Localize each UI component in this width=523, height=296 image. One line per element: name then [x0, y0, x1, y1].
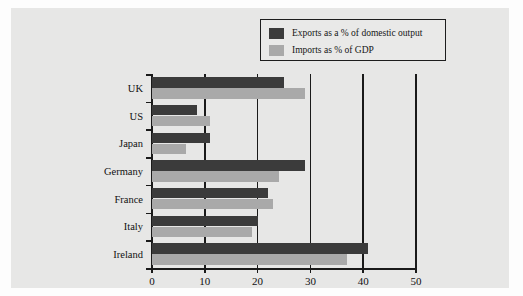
- bar-france-imports: [152, 199, 273, 210]
- y-tick-end: [146, 268, 152, 270]
- plot-area: 01020304050 UKUSJapanGermanyFranceItalyI…: [152, 74, 416, 268]
- y-axis-label-france: France: [114, 193, 143, 204]
- x-tick-label-50: 50: [411, 275, 422, 287]
- y-axis-label-us: US: [130, 110, 143, 121]
- bar-italy-exports: [152, 216, 258, 227]
- x-tick-40: [362, 268, 364, 273]
- legend-item-imports: Imports as % of GDP: [269, 42, 445, 58]
- bar-uk-imports: [152, 88, 305, 99]
- x-tick-30: [310, 268, 312, 273]
- chart-legend: Exports as a % of domestic output Import…: [260, 19, 446, 61]
- gridline-50: [415, 74, 417, 268]
- x-tick-20: [257, 268, 259, 273]
- bar-france-exports: [152, 188, 268, 199]
- bar-us-imports: [152, 116, 210, 127]
- x-axis-line: [151, 268, 416, 270]
- x-tick-label-40: 40: [358, 275, 369, 287]
- legend-swatch-exports: [269, 28, 284, 39]
- x-tick-label-30: 30: [305, 275, 316, 287]
- y-tick-us: [146, 102, 152, 104]
- x-tick-label-0: 0: [149, 275, 155, 287]
- x-tick-label-20: 20: [252, 275, 263, 287]
- y-axis-label-japan: Japan: [119, 138, 143, 149]
- y-tick-japan: [146, 129, 152, 131]
- y-axis-label-ireland: Ireland: [113, 249, 143, 260]
- x-tick-50: [415, 268, 417, 273]
- legend-item-exports: Exports as a % of domestic output: [269, 25, 445, 41]
- y-tick-italy: [146, 213, 152, 215]
- bar-japan-exports: [152, 133, 210, 144]
- y-tick-france: [146, 185, 152, 187]
- bar-germany-imports: [152, 171, 279, 182]
- bar-uk-exports: [152, 77, 284, 88]
- bar-ireland-exports: [152, 243, 368, 254]
- chart-panel: Exports as a % of domestic output Import…: [11, 8, 509, 288]
- legend-label-imports: Imports as % of GDP: [292, 44, 374, 56]
- y-axis-label-germany: Germany: [104, 166, 143, 177]
- gridline-30: [310, 74, 312, 268]
- x-tick-10: [204, 268, 206, 273]
- legend-swatch-imports: [269, 45, 284, 56]
- legend-label-exports: Exports as a % of domestic output: [292, 27, 422, 39]
- bar-italy-imports: [152, 227, 252, 238]
- y-axis-label-italy: Italy: [124, 221, 143, 232]
- x-tick-label-10: 10: [199, 275, 210, 287]
- chart-figure: Exports as a % of domestic output Import…: [0, 0, 523, 296]
- bar-germany-exports: [152, 160, 305, 171]
- y-tick-ireland: [146, 240, 152, 242]
- y-axis-label-uk: UK: [128, 82, 143, 93]
- bar-us-exports: [152, 105, 197, 116]
- y-tick-uk: [146, 74, 152, 76]
- y-tick-germany: [146, 157, 152, 159]
- gridline-40: [362, 74, 364, 268]
- bar-ireland-imports: [152, 254, 347, 265]
- bar-japan-imports: [152, 144, 186, 155]
